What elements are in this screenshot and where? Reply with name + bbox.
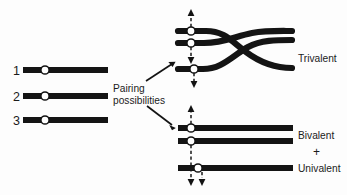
plus-symbol: + bbox=[313, 145, 320, 159]
bivalent-arrow-up bbox=[188, 105, 195, 124]
univalent-arrow-down-right bbox=[199, 172, 206, 186]
univalent-centromere-icon bbox=[194, 164, 202, 172]
chromosome-1 bbox=[23, 66, 108, 74]
trivalent-arrow-up bbox=[188, 9, 195, 27]
bivalent-centromere-1-icon bbox=[187, 124, 195, 132]
trivalent-centromere-3-icon bbox=[190, 65, 198, 73]
trivalent-label: Trivalent bbox=[298, 53, 337, 64]
bivalent-univalent-group bbox=[178, 105, 293, 186]
trivalent-group bbox=[178, 9, 292, 88]
chromosome-1-label: 1 bbox=[13, 64, 20, 78]
diagram-canvas: 1 2 3 Pairing possibilities Trivalent Bi… bbox=[0, 0, 347, 195]
chromosome-3 bbox=[23, 116, 108, 124]
trivalent-centromere-1-icon bbox=[187, 27, 195, 35]
lead-arrow-up bbox=[146, 62, 176, 81]
trivalent-arrow-down-middle bbox=[188, 47, 195, 64]
unpaired-chromosome-group bbox=[23, 66, 108, 124]
chromosome-3-centromere-icon bbox=[41, 116, 49, 124]
pairing-possibilities-figure: 1 2 3 Pairing possibilities Trivalent Bi… bbox=[0, 0, 347, 195]
chromosome-2 bbox=[23, 92, 108, 100]
trivalent-centromere-2-icon bbox=[187, 39, 195, 47]
pairing-label-line1: Pairing bbox=[113, 83, 145, 94]
bivalent-centromere-2-icon bbox=[187, 137, 195, 145]
chromosome-2-centromere-icon bbox=[41, 92, 49, 100]
univalent-label: Univalent bbox=[298, 163, 341, 174]
trivalent-arrow-down-bottom bbox=[191, 73, 198, 88]
univalent-arrow-down-left bbox=[188, 179, 195, 186]
bivalent-label: Bivalent bbox=[298, 130, 334, 141]
lead-arrow-down bbox=[147, 106, 176, 130]
chromosome-2-label: 2 bbox=[13, 90, 20, 104]
chromosome-1-centromere-icon bbox=[41, 66, 49, 74]
chromosome-3-label: 3 bbox=[13, 114, 20, 128]
pairing-label-line2: possibilities bbox=[113, 95, 165, 106]
